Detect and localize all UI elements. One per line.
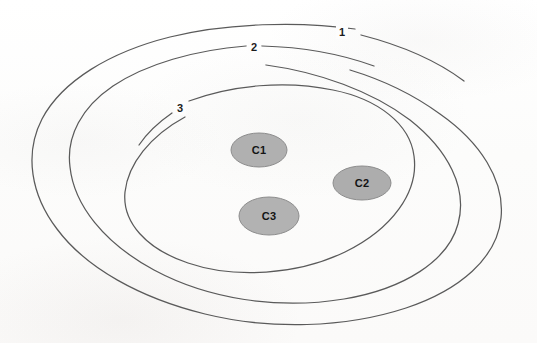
cluster-shape-c1: [231, 133, 287, 167]
figure-container: 1 2 3 C1 C2 C3: [0, 0, 537, 343]
ring-label-3: 3: [174, 102, 186, 115]
ring-label-2: 2: [248, 41, 260, 54]
ring-outline-1-segment-right: [361, 35, 464, 81]
ring-outline-2-segment-right: [262, 46, 374, 66]
nested-ellipse-diagram: [0, 0, 537, 343]
ring-outline-1: [32, 24, 501, 324]
cluster-shape-c2: [333, 166, 391, 200]
ring-label-1: 1: [336, 26, 348, 39]
ring-outline-2: [69, 46, 460, 303]
cluster-shape-c3: [239, 197, 299, 235]
